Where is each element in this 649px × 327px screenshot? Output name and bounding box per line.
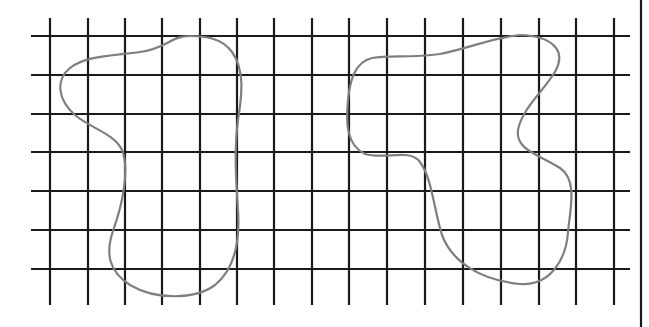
grid-diagram xyxy=(0,0,649,327)
grid-vertical-lines xyxy=(50,18,614,305)
grid-horizontal-lines xyxy=(31,36,630,269)
right-closed-curve xyxy=(347,35,571,284)
